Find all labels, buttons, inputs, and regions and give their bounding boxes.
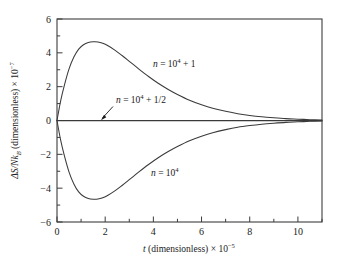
y-tick-label: 6 xyxy=(46,14,51,25)
y-tick-label: 4 xyxy=(46,47,51,58)
x-tick-label: 4 xyxy=(151,226,156,237)
y-tick-label: −4 xyxy=(40,183,51,194)
y-axis-title: ΔS/NkB (dimensionless) × 10−7 xyxy=(8,61,21,179)
x-tick-label: 0 xyxy=(55,226,60,237)
entropy-plot: 02468106420−2−4−6 n = 104 + 1 n = 104 + … xyxy=(0,0,339,267)
y-tick-label: 2 xyxy=(46,81,51,92)
x-axis-title: t (dimensionless) × 10−5 xyxy=(143,242,236,255)
annotation-lower-curve: n = 104 xyxy=(151,166,179,178)
x-tick-label: 2 xyxy=(103,226,108,237)
y-tick-label: −2 xyxy=(40,149,51,160)
y-tick-label: −6 xyxy=(40,217,51,228)
x-tick-label: 6 xyxy=(199,226,204,237)
x-tick-label: 10 xyxy=(293,226,303,237)
annotation-upper-curve: n = 104 + 1 xyxy=(153,57,196,69)
y-tick-label: 0 xyxy=(46,115,51,126)
figure-container: 02468106420−2−4−6 n = 104 + 1 n = 104 + … xyxy=(0,0,339,267)
x-tick-label: 8 xyxy=(247,226,252,237)
